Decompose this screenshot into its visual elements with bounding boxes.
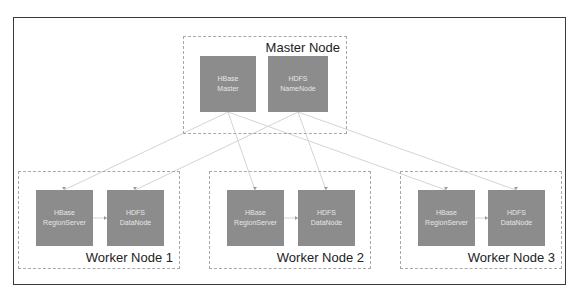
worker-1-datanode-line1: HDFS: [126, 208, 145, 218]
hdfs-namenode-box: HDFS NameNode: [268, 56, 328, 112]
worker-3-regionserver-box: HBase RegionServer: [418, 190, 475, 246]
worker-3-regionserver-line2: RegionServer: [425, 218, 468, 228]
worker-2-datanode-line2: DataNode: [311, 218, 343, 228]
worker-3-datanode-box: HDFS DataNode: [488, 190, 545, 246]
worker-3-datanode-line2: DataNode: [501, 218, 533, 228]
worker-node-1-label: Worker Node 1: [86, 250, 173, 265]
worker-2-regionserver-line2: RegionServer: [234, 218, 277, 228]
hdfs-namenode-line1: HDFS: [288, 74, 307, 84]
worker-1-datanode-box: HDFS DataNode: [107, 190, 164, 246]
worker-2-regionserver-line1: HBase: [245, 208, 266, 218]
worker-node-3-label: Worker Node 3: [468, 250, 555, 265]
worker-node-2-label: Worker Node 2: [277, 250, 364, 265]
worker-3-regionserver-line1: HBase: [436, 208, 457, 218]
worker-2-regionserver-box: HBase RegionServer: [227, 190, 284, 246]
worker-2-datanode-box: HDFS DataNode: [298, 190, 355, 246]
worker-1-datanode-line2: DataNode: [120, 218, 152, 228]
worker-1-regionserver-line2: RegionServer: [43, 218, 86, 228]
hbase-master-line1: HBase: [217, 74, 238, 84]
worker-1-regionserver-line1: HBase: [54, 208, 75, 218]
worker-3-datanode-line1: HDFS: [507, 208, 526, 218]
master-node-label: Master Node: [266, 40, 340, 55]
worker-2-datanode-line1: HDFS: [317, 208, 336, 218]
hdfs-namenode-line2: NameNode: [280, 84, 315, 94]
worker-1-regionserver-box: HBase RegionServer: [36, 190, 93, 246]
hbase-master-line2: Master: [217, 84, 238, 94]
hbase-master-box: HBase Master: [200, 56, 256, 112]
